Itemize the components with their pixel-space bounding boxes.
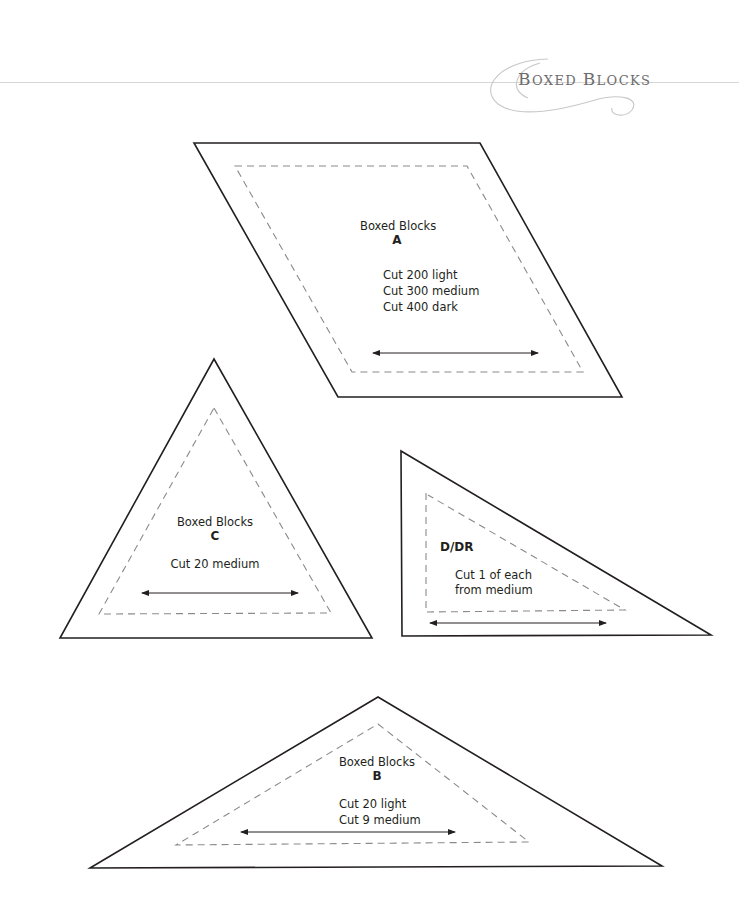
template-d-dr-cut-1: Cut 1 of each — [455, 568, 532, 582]
template-b-cut-2: Cut 9 medium — [339, 813, 421, 827]
template-b-letter: B — [372, 769, 381, 783]
header-title-oxed: OXED — [532, 73, 583, 88]
header-title-locks: LOCKS — [597, 73, 652, 88]
template-d-dr-letter: D/DR — [440, 540, 474, 554]
template-a-cut-2: Cut 300 medium — [383, 284, 479, 298]
template-c-name: Boxed Blocks — [177, 515, 253, 529]
template-d-dr-cut-2: from medium — [455, 583, 533, 597]
template-c-letter: C — [211, 529, 220, 543]
template-a-cut-1: Cut 200 light — [383, 268, 458, 282]
template-c — [60, 359, 372, 638]
template-drawing — [0, 0, 739, 913]
template-c-cut-line — [60, 359, 372, 638]
header-title-b: B — [518, 69, 532, 89]
template-a-name: Boxed Blocks — [360, 219, 436, 233]
pattern-page: BOXED BLOCKS Boxed Blocks A Cut 200 ligh… — [0, 0, 739, 913]
page-header-title: BOXED BLOCKS — [518, 69, 651, 89]
header-title-b2: B — [583, 69, 597, 89]
template-b-cut-1: Cut 20 light — [339, 797, 406, 811]
template-a-cut-3: Cut 400 dark — [383, 300, 458, 314]
template-b-name: Boxed Blocks — [339, 755, 415, 769]
template-c-cut-1: Cut 20 medium — [170, 557, 259, 571]
template-a-letter: A — [392, 233, 401, 247]
